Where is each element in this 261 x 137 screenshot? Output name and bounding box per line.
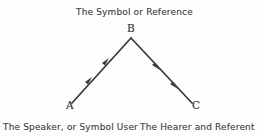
- edge-b-to-c: [131, 38, 192, 103]
- vertex-label-a: A: [66, 100, 74, 111]
- diagram-canvas: The Symbol or Reference B A C The Speake…: [0, 0, 261, 137]
- bottom-right-caption: The Hearer and Referent: [140, 121, 255, 132]
- bottom-left-caption: The Speaker, or Symbol User: [3, 121, 138, 132]
- edge-a-to-b: [72, 38, 131, 103]
- vertex-label-c: C: [192, 100, 200, 111]
- triangle-lines: [0, 0, 261, 137]
- top-caption: The Symbol or Reference: [76, 6, 193, 17]
- vertex-label-b: B: [127, 23, 135, 34]
